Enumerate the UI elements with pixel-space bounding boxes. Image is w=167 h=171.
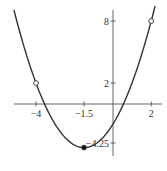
y-tick-label: −4.25 (86, 138, 109, 149)
y-tick-label: 8 (104, 16, 109, 27)
x-tick-label: −4 (31, 108, 42, 119)
key-points (34, 19, 154, 150)
x-tick-label: 2 (149, 108, 154, 119)
open-endpoint (34, 81, 39, 86)
parabola-chart: −4−1.52 82−4.25 (0, 0, 167, 171)
y-tick-label: 2 (104, 78, 109, 89)
parabola-curve (14, 6, 155, 147)
vertex-point (82, 145, 87, 150)
open-endpoint (149, 19, 154, 24)
y-ticks: 82−4.25 (86, 16, 116, 149)
x-tick-label: −1.5 (75, 108, 93, 119)
